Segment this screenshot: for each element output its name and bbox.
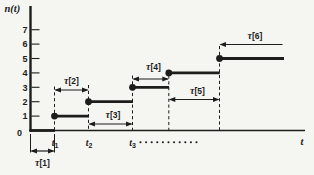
y-tick-label-7: 7 xyxy=(22,25,27,35)
x-axis-label: t xyxy=(301,136,305,147)
tau-6-arrowhead-left xyxy=(220,42,227,47)
counting-process-figure: 12345670n(t)tt1t2t3τ[1]τ[2]τ[3]τ[4]τ[5]τ… xyxy=(0,0,314,175)
continuation-dot xyxy=(139,141,141,143)
origin-label: 0 xyxy=(17,128,22,138)
x-tick-label-t3: t3 xyxy=(129,137,136,150)
tau-4-arrowhead-right xyxy=(162,77,169,82)
y-axis-label: n(t) xyxy=(5,3,21,15)
arrival-dot-2 xyxy=(85,98,92,105)
arrival-dot-1 xyxy=(51,113,58,120)
tau-1-arrowhead-right xyxy=(48,149,55,154)
tau-4-label: τ[4] xyxy=(146,61,161,72)
y-tick-label-1: 1 xyxy=(22,111,27,121)
tau-2-arrowhead-right xyxy=(82,88,89,93)
x-tick-label-t2: t2 xyxy=(86,137,93,150)
continuation-dot xyxy=(173,141,175,143)
continuation-dot xyxy=(195,141,197,143)
continuation-dot xyxy=(184,141,186,143)
tau-5-arrowhead-right xyxy=(213,97,220,102)
tau-1-arrowhead-left xyxy=(31,149,38,154)
continuation-dot xyxy=(179,141,181,143)
tau-3-arrowhead-left xyxy=(89,122,96,127)
arrival-dot-5 xyxy=(216,55,223,62)
arrival-dot-3 xyxy=(129,84,136,91)
figure-svg: 12345670n(t)tt1t2t3τ[1]τ[2]τ[3]τ[4]τ[5]τ… xyxy=(0,0,314,175)
y-tick-label-6: 6 xyxy=(22,39,27,49)
tau-4-arrowhead-left xyxy=(133,77,140,82)
continuation-dot xyxy=(156,141,158,143)
continuation-dot xyxy=(145,141,147,143)
y-tick-label-3: 3 xyxy=(22,83,27,93)
tau-5-label: τ[5] xyxy=(190,85,205,96)
continuation-dot xyxy=(190,141,192,143)
tau-3-label: τ[3] xyxy=(106,109,121,120)
arrival-dot-4 xyxy=(165,70,172,77)
tau-3-arrowhead-right xyxy=(126,122,133,127)
y-tick-label-2: 2 xyxy=(22,97,27,107)
tau-6-label: τ[6] xyxy=(248,30,263,41)
tau-2-label: τ[2] xyxy=(64,75,79,86)
tau-1-label: τ[1] xyxy=(35,157,50,168)
y-tick-label-5: 5 xyxy=(22,54,27,64)
continuation-dot xyxy=(167,141,169,143)
tau-5-arrowhead-left xyxy=(169,97,176,102)
tau-2-arrowhead-left xyxy=(55,88,62,93)
y-tick-label-4: 4 xyxy=(22,68,27,78)
continuation-dot xyxy=(151,141,153,143)
x-tick-label-t1: t1 xyxy=(52,137,59,150)
continuation-dot xyxy=(162,141,164,143)
